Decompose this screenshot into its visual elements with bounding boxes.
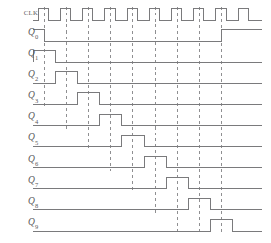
- signal-label-clk: CLK: [24, 10, 38, 17]
- signal-label-q9: Q9: [28, 218, 38, 229]
- signal-label-q0: Q0: [28, 28, 38, 39]
- signal-label-base: Q: [28, 112, 35, 122]
- waveform-q1: [33, 51, 262, 63]
- waveform-clk: [33, 9, 262, 21]
- waveform-q5: [33, 135, 262, 147]
- signal-label-q5: Q5: [28, 134, 38, 145]
- signal-label-subscript: 0: [35, 34, 38, 41]
- waveform-q6: [33, 156, 262, 168]
- signal-label-subscript: 8: [35, 202, 38, 209]
- signal-label-subscript: 9: [35, 223, 38, 230]
- signal-label-subscript: 2: [35, 76, 38, 83]
- waveform-q4: [33, 114, 262, 126]
- timing-diagram: CLKQ0Q1Q2Q3Q4Q5Q6Q7Q8Q9: [0, 0, 271, 243]
- signal-label-subscript: 6: [35, 160, 38, 167]
- timing-waveform-canvas: [0, 0, 271, 243]
- signal-label-base: Q: [28, 196, 35, 206]
- waveform-q7: [33, 177, 262, 189]
- signal-label-base: Q: [28, 90, 35, 100]
- signal-label-subscript: 7: [35, 181, 38, 188]
- waveform-q0: [33, 30, 262, 41]
- signal-label-base: Q: [28, 175, 35, 185]
- signal-label-base: Q: [28, 154, 35, 164]
- signal-label-subscript: 4: [35, 118, 38, 125]
- signal-label-q6: Q6: [28, 155, 38, 166]
- signal-label-subscript: 3: [35, 97, 38, 104]
- signal-label-base: Q: [28, 133, 35, 143]
- waveform-q2: [33, 72, 262, 84]
- signal-label-q7: Q7: [28, 176, 38, 187]
- signal-label-base: Q: [28, 27, 35, 37]
- signal-label-subscript: 1: [35, 55, 38, 62]
- signal-label-q1: Q1: [28, 49, 38, 60]
- signal-label-q2: Q2: [28, 70, 38, 81]
- signal-label-base: Q: [28, 48, 35, 58]
- waveform-layer: [33, 9, 262, 232]
- signal-label-q8: Q8: [28, 197, 38, 208]
- waveform-q9: [33, 220, 262, 232]
- signal-label-subscript: 5: [35, 139, 38, 146]
- signal-label-base: Q: [28, 217, 35, 227]
- waveform-q8: [33, 198, 262, 210]
- waveform-q3: [33, 93, 262, 105]
- signal-label-base: Q: [28, 69, 35, 79]
- signal-label-q3: Q3: [28, 91, 38, 102]
- signal-label-q4: Q4: [28, 113, 38, 124]
